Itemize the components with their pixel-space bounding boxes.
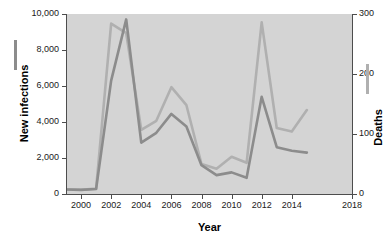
y-tick-label-left: 10,000 — [15, 9, 59, 18]
y-tick-left — [62, 86, 66, 87]
x-tick — [292, 195, 293, 199]
y-tick-label-right: 0 — [359, 189, 364, 198]
y-axis-right-line — [352, 14, 353, 195]
y-axis-left-line — [66, 14, 67, 195]
y-tick-left — [62, 50, 66, 51]
y-tick-left — [62, 14, 66, 15]
x-tick-label: 2018 — [332, 201, 372, 210]
x-tick — [171, 195, 172, 199]
legend-swatch-deaths — [366, 64, 369, 94]
y-tick-label-right: 300 — [359, 9, 374, 18]
y-tick-left — [62, 122, 66, 123]
x-axis-line — [66, 194, 353, 195]
x-tick — [232, 195, 233, 199]
y-tick-right — [353, 74, 357, 75]
y-axis-right-title: Deaths — [373, 68, 384, 188]
y-tick-left — [62, 194, 66, 195]
line-deaths — [66, 22, 307, 189]
x-tick — [141, 195, 142, 199]
y-axis-left-title: New infections — [19, 44, 30, 164]
x-axis-title: Year — [66, 222, 353, 233]
x-tick — [202, 195, 203, 199]
x-tick — [111, 195, 112, 199]
x-tick — [352, 195, 353, 199]
x-tick — [81, 195, 82, 199]
y-tick-right — [353, 14, 357, 15]
x-tick-label: 2014 — [272, 201, 312, 210]
x-tick — [262, 195, 263, 199]
series-plot — [66, 14, 352, 194]
y-tick-right — [353, 134, 357, 135]
y-tick-left — [62, 158, 66, 159]
y-tick-label-left: 0 — [15, 189, 59, 198]
chart-figure: 02,0004,0006,0008,00010,0000100200300200… — [0, 0, 385, 249]
y-tick-right — [353, 194, 357, 195]
